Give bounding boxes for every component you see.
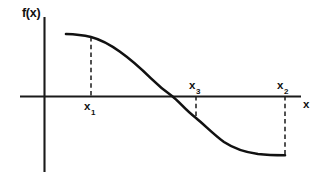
tick-label-x2-base: x [277,79,283,91]
tick-label-x1: x1 [84,101,95,115]
tick-label-x1-base: x [84,100,90,112]
tick-label-x3-base: x [189,79,195,91]
tick-label-x1-subscript: 1 [91,108,95,117]
function-curve [66,34,285,155]
x-axis-label: x [303,99,309,111]
tick-label-x2-subscript: 2 [284,87,288,96]
function-plot-figure: f(x) x x1 x3 x2 [0,0,325,182]
tick-label-x2: x2 [277,80,288,94]
tick-label-x3-subscript: 3 [196,87,200,96]
tick-label-x3: x3 [189,80,200,94]
y-axis-label: f(x) [22,7,40,20]
